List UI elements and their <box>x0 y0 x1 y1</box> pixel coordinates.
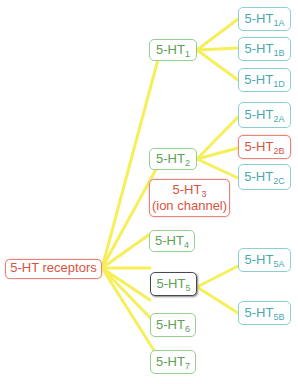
node-subscript: 5B <box>273 312 284 322</box>
node-5ht2c[interactable]: 5-HT2C <box>238 164 291 190</box>
node-subscript: 6 <box>185 324 190 334</box>
node-label: 5-HT <box>156 317 185 332</box>
node-label: 5-HT <box>245 139 274 154</box>
node-subscript: 1A <box>273 18 284 28</box>
node-subscript: 1B <box>273 48 284 58</box>
node-subscript: 2B <box>273 146 284 156</box>
node-5ht2b[interactable]: 5-HT2B <box>238 135 291 159</box>
node-5ht2[interactable]: 5-HT2 <box>149 148 197 170</box>
node-5ht4[interactable]: 5-HT4 <box>149 230 195 252</box>
node-5ht1b[interactable]: 5-HT1B <box>238 37 291 61</box>
node-label: 5-HT <box>173 182 202 197</box>
node-subscript: 5A <box>273 259 284 269</box>
node-5ht5b[interactable]: 5-HT5B <box>238 301 291 325</box>
node-label: 5-HT <box>245 252 274 267</box>
node-5ht7[interactable]: 5-HT7 <box>150 350 196 374</box>
node-label: 5-HT <box>155 233 184 248</box>
node-label: 5-HT <box>244 169 273 184</box>
root-node-5ht-receptors[interactable]: 5-HT receptors <box>5 259 102 279</box>
node-5ht5a[interactable]: 5-HT5A <box>238 248 291 272</box>
root-label: 5-HT receptors <box>10 260 96 275</box>
node-5ht6[interactable]: 5-HT6 <box>150 313 196 337</box>
node-note: (ion channel) <box>150 198 229 214</box>
node-5ht1[interactable]: 5-HT1 <box>149 39 197 61</box>
node-subscript: 1D <box>273 79 285 89</box>
node-label: 5-HT <box>245 41 274 56</box>
node-5ht1a[interactable]: 5-HT1A <box>238 7 291 31</box>
node-subscript: 1 <box>185 49 190 59</box>
node-label: 5-HT <box>156 42 185 57</box>
node-label: 5-HT <box>156 354 185 369</box>
node-5ht5[interactable]: 5-HT5 <box>150 272 197 296</box>
node-5ht3-ion-channel[interactable]: 5-HT3 (ion channel) <box>149 179 230 217</box>
node-label: 5-HT <box>245 107 274 122</box>
node-label: 5-HT <box>245 305 274 320</box>
node-5ht1d[interactable]: 5-HT1D <box>238 68 291 92</box>
node-subscript: 2 <box>185 158 190 168</box>
node-label: 5-HT <box>245 11 274 26</box>
node-5ht2a[interactable]: 5-HT2A <box>238 102 291 128</box>
node-subscript: 5 <box>185 283 190 293</box>
node-subscript: 4 <box>184 240 189 250</box>
node-label: 5-HT <box>156 151 185 166</box>
node-subscript: 2C <box>273 176 285 186</box>
node-subscript: 2A <box>273 114 284 124</box>
node-label: 5-HT <box>244 72 273 87</box>
node-label: 5-HT <box>157 276 186 291</box>
node-subscript: 7 <box>185 361 190 371</box>
